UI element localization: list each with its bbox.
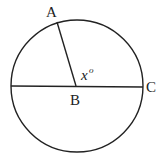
circle-diagram: A B C x o: [0, 0, 165, 160]
point-label-a: A: [46, 4, 57, 20]
angle-label-x: x: [80, 67, 88, 83]
point-label-c: C: [146, 79, 156, 95]
point-label-b: B: [70, 92, 80, 108]
diameter-line: [11, 86, 143, 87]
radius-line-ab: [57, 22, 76, 86]
angle-degree-symbol: o: [89, 65, 94, 75]
